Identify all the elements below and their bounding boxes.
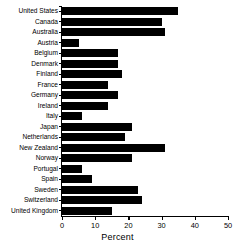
bar-row: Sweden <box>62 185 228 196</box>
x-axis-tick <box>162 216 163 220</box>
bar-row: Australia <box>62 27 228 38</box>
x-axis-tick <box>195 216 196 220</box>
bar-row: Ireland <box>62 101 228 112</box>
bar-row: New Zealand <box>62 143 228 154</box>
category-label: Sweden <box>0 185 58 196</box>
bar <box>62 28 165 36</box>
x-axis-tick <box>95 216 96 220</box>
bar <box>62 154 132 162</box>
x-axis-tick-label: 30 <box>149 221 175 230</box>
bar-row: Finland <box>62 69 228 80</box>
bar-row: Germany <box>62 90 228 101</box>
x-axis-line <box>62 216 229 217</box>
x-axis-tick-label: 10 <box>82 221 108 230</box>
plot-area: United StatesCanadaAustraliaAustriaBelgi… <box>62 6 228 216</box>
category-label: Portugal <box>0 164 58 175</box>
x-axis-tick-label: 0 <box>49 221 75 230</box>
category-label: Spain <box>0 174 58 185</box>
category-label: Ireland <box>0 101 58 112</box>
bar <box>62 186 138 194</box>
bar-row: Italy <box>62 111 228 122</box>
category-label: Switzerland <box>0 195 58 206</box>
x-axis-tick-label: 50 <box>215 221 235 230</box>
bar-row: United Kingdom <box>62 206 228 217</box>
category-label: United Kingdom <box>0 206 58 217</box>
bar <box>62 60 118 68</box>
bar <box>62 102 108 110</box>
bar <box>62 123 132 131</box>
category-label: Australia <box>0 27 58 38</box>
bar-row: Norway <box>62 153 228 164</box>
bar-row: Portugal <box>62 164 228 175</box>
x-axis-tick-label: 20 <box>115 221 141 230</box>
bar <box>62 91 118 99</box>
x-axis-tick <box>128 216 129 220</box>
category-label: United States <box>0 6 58 17</box>
category-label: Canada <box>0 17 58 28</box>
bar <box>62 144 165 152</box>
category-label: Netherlands <box>0 132 58 143</box>
category-label: Norway <box>0 153 58 164</box>
bar <box>62 133 125 141</box>
bar-row: Austria <box>62 38 228 49</box>
bar-row: Denmark <box>62 59 228 70</box>
category-label: France <box>0 80 58 91</box>
bar <box>62 207 112 215</box>
bar <box>62 112 82 120</box>
category-label: Italy <box>0 111 58 122</box>
category-label: Japan <box>0 122 58 133</box>
category-label: Denmark <box>0 59 58 70</box>
bar <box>62 196 142 204</box>
x-axis-tick <box>228 216 229 220</box>
x-axis-tick <box>62 216 63 220</box>
bar <box>62 39 79 47</box>
bar <box>62 7 178 15</box>
category-label: Germany <box>0 90 58 101</box>
category-label: New Zealand <box>0 143 58 154</box>
category-label: Belgium <box>0 48 58 59</box>
bar-row: United States <box>62 6 228 17</box>
bar-row: Netherlands <box>62 132 228 143</box>
bar-chart: United StatesCanadaAustraliaAustriaBelgi… <box>0 0 235 248</box>
category-label: Finland <box>0 69 58 80</box>
bar <box>62 175 92 183</box>
bar <box>62 18 162 26</box>
bar-row: Spain <box>62 174 228 185</box>
bar-row: Canada <box>62 17 228 28</box>
bar <box>62 81 108 89</box>
x-axis-title: Percent <box>0 232 235 242</box>
bar-row: Japan <box>62 122 228 133</box>
bar-row: Belgium <box>62 48 228 59</box>
bar-row: Switzerland <box>62 195 228 206</box>
bar-row: France <box>62 80 228 91</box>
category-label: Austria <box>0 38 58 49</box>
bar <box>62 70 122 78</box>
bar <box>62 49 118 57</box>
bar <box>62 165 82 173</box>
x-axis-tick-label: 40 <box>182 221 208 230</box>
